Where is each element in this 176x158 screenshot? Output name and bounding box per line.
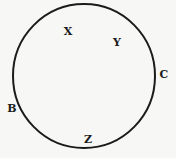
circle-label-c: C	[160, 69, 169, 80]
circle-label-y: Y	[113, 37, 121, 48]
circle-label-z: Z	[84, 134, 92, 145]
circle-diagram: X Y C B Z	[0, 0, 176, 158]
circle-label-b: B	[7, 103, 16, 114]
circle-label-x: X	[64, 26, 73, 37]
